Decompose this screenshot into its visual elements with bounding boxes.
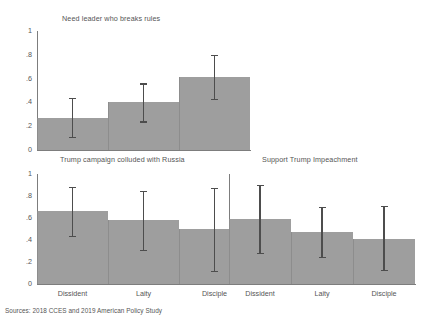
x-tick-label-bottom-right-2: Disciple — [353, 290, 415, 298]
x-tick-label-bottom-right-0: Dissident — [229, 290, 291, 298]
error-bar-cap-bottom-right-2-low — [381, 270, 388, 271]
x-tick-label-bottom-right-1: Laity — [291, 290, 353, 298]
figure-canvas: Need leader who breaks rules0.2.4.6.81Tr… — [0, 0, 425, 326]
error-bar-line-bottom-right-0 — [259, 185, 260, 253]
chart-panel-bottom-right: Support Trump ImpeachmentDissidentLaityD… — [0, 0, 425, 326]
error-bar-line-bottom-right-1 — [321, 207, 322, 257]
panel-title-bottom-right: Support Trump Impeachment — [262, 155, 358, 164]
source-note: Sources: 2018 CCES and 2019 American Pol… — [5, 307, 162, 314]
error-bar-cap-bottom-right-1-low — [319, 257, 326, 258]
x-axis-line-bottom-right — [229, 284, 416, 285]
error-bar-cap-bottom-right-2-high — [381, 206, 388, 207]
error-bar-cap-bottom-right-0-low — [257, 253, 264, 254]
error-bar-cap-bottom-right-1-high — [319, 207, 326, 208]
error-bar-line-bottom-right-2 — [383, 206, 384, 270]
error-bar-cap-bottom-right-0-high — [257, 185, 264, 186]
